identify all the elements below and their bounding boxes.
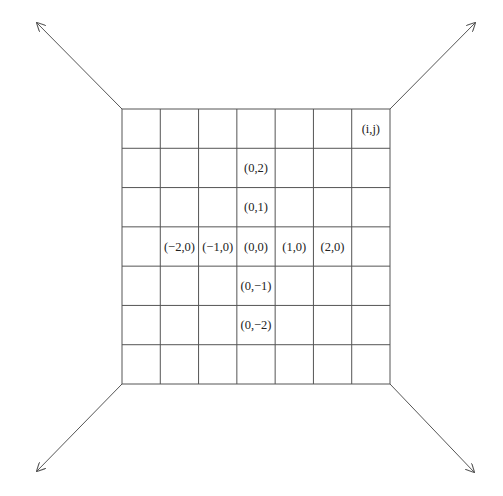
arrow-bottom-right-icon — [390, 384, 474, 472]
label-p0_1: (0,1) — [244, 200, 268, 215]
arrow-bottom-left-icon — [37, 384, 122, 471]
label-p0_m1: (0,−1) — [241, 278, 272, 293]
arrow-top-right-icon — [390, 23, 475, 109]
label-p2_0: (2,0) — [321, 239, 345, 254]
label-p0_2: (0,2) — [244, 160, 268, 175]
label-ij: (i,j) — [362, 121, 380, 136]
label-p0_0: (0,0) — [244, 239, 268, 254]
label-pm2_0: (−2,0) — [164, 239, 195, 254]
label-p1_0: (1,0) — [282, 239, 306, 254]
label-p0_m2: (0,−2) — [241, 318, 272, 333]
arrow-top-left-icon — [37, 23, 122, 109]
label-pm1_0: (−1,0) — [202, 239, 233, 254]
